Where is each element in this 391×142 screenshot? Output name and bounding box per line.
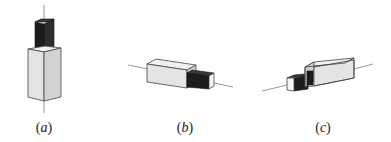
panel-c-label: (c): [315, 120, 331, 136]
panel-b-small-block-front: [187, 73, 209, 89]
panel-b-label-letter: b: [182, 120, 189, 135]
panel-a-label-close: ): [48, 120, 53, 135]
panel-c-small-block-opening: [307, 71, 313, 85]
panel-b-axis-line-left: [128, 65, 148, 69]
panel-b-small-block-end: [209, 73, 214, 89]
figure-canvas: [0, 0, 391, 142]
panel-a-small-block-side: [44, 19, 54, 50]
panel-a-label-letter: a: [41, 120, 48, 135]
panel-a: [28, 5, 61, 113]
panel-b-label: (b): [177, 120, 193, 136]
panel-b-axis-line-right: [214, 83, 233, 87]
panel-c-axis-line-right: [354, 64, 373, 69]
panel-c-label-close: ): [326, 120, 331, 135]
panel-a-small-block-front: [35, 22, 44, 50]
panel-c-axis-line-left: [262, 85, 287, 91]
panel-a-large-block-side: [44, 48, 61, 101]
panel-c: [262, 58, 373, 91]
panel-b: [128, 59, 233, 89]
panel-a-large-block-front: [28, 49, 44, 101]
panel-b-label-close: ): [189, 120, 194, 135]
panel-c-small-block-end: [287, 78, 294, 91]
panel-a-label: (a): [36, 120, 52, 136]
